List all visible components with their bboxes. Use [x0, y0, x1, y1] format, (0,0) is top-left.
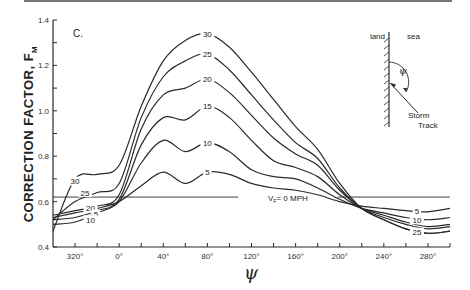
x-axis-label: ψ — [244, 262, 258, 283]
panel-label: C. — [73, 28, 83, 39]
curve-label: 10 — [86, 216, 95, 225]
curve-label: 30 — [71, 177, 80, 186]
svg-text:ψ: ψ — [399, 65, 407, 76]
svg-text:Storm: Storm — [408, 111, 430, 120]
curve-label: 5 — [205, 168, 210, 177]
svg-text:land: land — [370, 32, 385, 41]
curve-label: 15 — [203, 102, 212, 111]
curve-10 — [53, 140, 450, 224]
svg-text:1.0: 1.0 — [38, 107, 50, 116]
svg-text:VF= 0 MPH: VF= 0 MPH — [268, 194, 308, 204]
curve-label: 10 — [412, 216, 421, 225]
svg-text:sea: sea — [407, 32, 420, 41]
svg-text:0.8: 0.8 — [38, 152, 50, 161]
chart-canvas: 0.40.60.81.01.21.4320°0°40°80°120°160°20… — [0, 0, 470, 290]
svg-text:0.6: 0.6 — [38, 198, 50, 207]
svg-text:1.2: 1.2 — [38, 61, 50, 70]
curve-label: 20 — [203, 75, 212, 84]
svg-text:200°: 200° — [331, 252, 348, 261]
svg-text:0.4: 0.4 — [38, 243, 50, 252]
svg-text:120°: 120° — [243, 252, 260, 261]
curve-labels: 3025205103025201510551025 — [68, 29, 424, 237]
svg-text:80°: 80° — [201, 252, 213, 261]
curve-30 — [53, 33, 450, 233]
curve-label: 30 — [203, 30, 212, 39]
svg-text:160°: 160° — [287, 252, 304, 261]
y-axis-label: CORRECTION FACTOR, FM — [21, 46, 39, 223]
curve-label: 25 — [203, 50, 212, 59]
svg-text:0°: 0° — [115, 252, 123, 261]
curve-label: 25 — [412, 228, 421, 237]
svg-text:240°: 240° — [376, 252, 393, 261]
inset-diagram: landseaψStormTrack — [370, 32, 439, 130]
svg-text:280°: 280° — [420, 252, 437, 261]
svg-text:320°: 320° — [67, 252, 84, 261]
svg-text:1.4: 1.4 — [38, 16, 50, 25]
curve-5 — [53, 172, 450, 218]
svg-text:Track: Track — [418, 121, 439, 130]
curve-label: 10 — [203, 139, 212, 148]
curve-label: 25 — [81, 189, 90, 198]
curves — [53, 33, 450, 233]
svg-text:40°: 40° — [157, 252, 169, 261]
